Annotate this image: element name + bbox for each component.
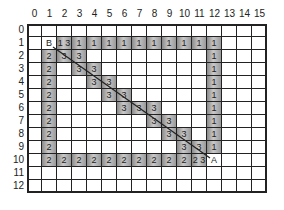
grid-cell	[57, 141, 72, 154]
grid-cell: 2	[42, 115, 57, 128]
grid-cell: 1	[177, 37, 192, 50]
grid-cell: 2	[147, 154, 162, 167]
column-label: 3	[72, 8, 87, 19]
grid-cell	[87, 102, 102, 115]
grid-cell	[27, 24, 42, 37]
grid-cell	[252, 154, 267, 167]
grid-cell: 2	[42, 102, 57, 115]
grid-cell	[237, 37, 252, 50]
column-label: 10	[177, 8, 192, 19]
grid-cell	[87, 24, 102, 37]
grid-cell: 3	[57, 50, 72, 63]
grid-cell	[222, 76, 237, 89]
grid: B1 3111111111123312331233123312333123312…	[27, 24, 267, 193]
grid-cell	[72, 24, 87, 37]
grid-cell: 2	[42, 141, 57, 154]
grid-cell: 2	[177, 154, 192, 167]
grid-cell	[252, 37, 267, 50]
grid-cell	[222, 180, 237, 193]
grid-cell	[27, 102, 42, 115]
row-label: 7	[0, 115, 24, 126]
grid-cell: 1	[207, 115, 222, 128]
grid-cell	[72, 76, 87, 89]
row-label: 5	[0, 89, 24, 100]
grid-cell	[147, 167, 162, 180]
grid-cell	[177, 89, 192, 102]
grid-cell: 2	[132, 154, 147, 167]
grid-cell	[27, 89, 42, 102]
grid-cell	[87, 50, 102, 63]
grid-cell	[147, 180, 162, 193]
grid-cell	[237, 63, 252, 76]
grid-cell	[117, 76, 132, 89]
grid-cell	[72, 89, 87, 102]
row-label: 12	[0, 180, 24, 191]
row-label: 9	[0, 141, 24, 152]
grid-cell: 1	[72, 37, 87, 50]
grid-cell	[237, 115, 252, 128]
column-label: 14	[237, 8, 252, 19]
column-label: 15	[252, 8, 267, 19]
grid-cell: 1	[117, 37, 132, 50]
grid-cell	[237, 154, 252, 167]
grid-cell	[147, 76, 162, 89]
grid-cell	[117, 180, 132, 193]
grid-cell	[72, 141, 87, 154]
grid-cell	[192, 180, 207, 193]
grid-cell	[252, 141, 267, 154]
grid-cell	[102, 167, 117, 180]
grid-cell	[237, 76, 252, 89]
grid-cell	[147, 89, 162, 102]
grid-cell: 2	[42, 50, 57, 63]
grid-cell	[132, 115, 147, 128]
grid-cell	[222, 37, 237, 50]
grid-cell	[237, 102, 252, 115]
grid-cell	[177, 76, 192, 89]
grid-cell: 3	[147, 102, 162, 115]
grid-cell	[132, 76, 147, 89]
grid-cell	[132, 24, 147, 37]
grid-cell	[192, 63, 207, 76]
grid-cell: 1	[207, 76, 222, 89]
grid-cell: 1	[207, 63, 222, 76]
grid-cell	[162, 167, 177, 180]
grid-cell: 3	[177, 128, 192, 141]
grid-cell	[207, 167, 222, 180]
grid-cell	[222, 154, 237, 167]
grid-cell	[252, 167, 267, 180]
grid-cell: 3	[102, 89, 117, 102]
grid-cell	[252, 128, 267, 141]
grid-cell: 3	[117, 89, 132, 102]
grid-cell: 3	[192, 141, 207, 154]
grid-cell: 1	[102, 37, 117, 50]
grid-cell	[57, 89, 72, 102]
grid-cell	[102, 115, 117, 128]
grid-cell	[252, 89, 267, 102]
grid-cell: 3	[162, 128, 177, 141]
grid-cell	[117, 128, 132, 141]
grid-cell: 2	[57, 154, 72, 167]
grid-cell	[252, 63, 267, 76]
grid-cell	[162, 50, 177, 63]
grid-cell	[222, 115, 237, 128]
column-label: 11	[192, 8, 207, 19]
grid-cell	[72, 180, 87, 193]
grid-cell	[162, 24, 177, 37]
grid-cell	[147, 24, 162, 37]
grid-cell	[237, 128, 252, 141]
grid-cell	[57, 180, 72, 193]
grid-cell: 3	[87, 63, 102, 76]
grid-cell	[27, 180, 42, 193]
grid-cell	[162, 180, 177, 193]
grid-cell	[117, 50, 132, 63]
grid-cell: 1	[162, 37, 177, 50]
grid-cell	[132, 50, 147, 63]
grid-cell	[222, 128, 237, 141]
grid-cell	[102, 180, 117, 193]
grid-cell	[162, 89, 177, 102]
column-label: 13	[222, 8, 237, 19]
grid-cell	[177, 102, 192, 115]
grid-cell	[117, 141, 132, 154]
grid-cell: 1	[192, 37, 207, 50]
grid-cell	[27, 141, 42, 154]
